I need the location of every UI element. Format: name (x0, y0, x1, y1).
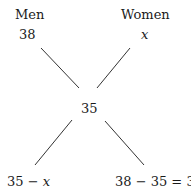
line-top-left (41, 48, 79, 88)
line-bottom-left (35, 120, 72, 165)
cross-lines (0, 0, 191, 194)
line-top-right (97, 48, 130, 88)
line-bottom-right (105, 121, 144, 165)
